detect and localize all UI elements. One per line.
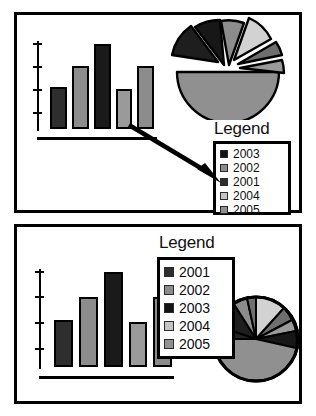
legend-row: 2004 — [220, 189, 283, 203]
bar-3 — [104, 272, 123, 367]
legend-label: 2003 — [179, 302, 210, 314]
legend-label: 2003 — [233, 148, 260, 160]
legend-swatch-2001 — [164, 267, 174, 277]
legend-label: 2005 — [179, 338, 210, 350]
annotation-arrow — [125, 119, 235, 189]
y-axis-tick — [33, 89, 42, 91]
y-axis-line — [37, 41, 39, 131]
legend-row: 2005 — [164, 335, 227, 353]
legend-row: 2004 — [164, 317, 227, 335]
legend-swatch-2005 — [164, 339, 174, 349]
top-exploded-pie — [165, 16, 291, 120]
legend-label: 2004 — [179, 320, 210, 332]
legend-row: 2003 — [164, 299, 227, 317]
legend-label: 2002 — [233, 162, 260, 174]
legend-swatch-2005 — [220, 206, 228, 214]
legend-row: 2001 — [164, 263, 227, 281]
y-axis-line — [39, 269, 41, 369]
y-axis-tick — [35, 271, 44, 273]
legend-label: 2004 — [233, 190, 260, 202]
legend-label: 2001 — [233, 176, 260, 188]
legend-row: 2005 — [220, 203, 283, 217]
legend-box: 2001 2002 2003 2004 2005 — [157, 257, 235, 359]
legend-row: 2002 — [164, 281, 227, 299]
bar-group — [54, 269, 174, 367]
arrow-icon — [129, 125, 221, 183]
bar-2 — [79, 297, 98, 367]
pie-slice-1 — [177, 72, 279, 120]
legend-label: 2002 — [179, 284, 210, 296]
legend-label: 2001 — [179, 266, 210, 278]
y-axis-tick — [33, 43, 42, 45]
bar-1 — [54, 320, 73, 367]
y-axis-tick — [33, 66, 42, 68]
bar-4 — [129, 322, 147, 367]
bar-3 — [94, 44, 111, 129]
legend-swatch-2003 — [164, 303, 174, 313]
x-axis-line — [39, 376, 174, 379]
y-axis-tick — [35, 296, 44, 298]
bar-1 — [50, 87, 67, 129]
legend-swatch-2004 — [164, 321, 174, 331]
y-axis-tick — [35, 348, 44, 350]
legend-swatch-2004 — [220, 192, 228, 200]
y-axis-tick — [33, 112, 42, 114]
bar-2 — [72, 66, 89, 129]
legend-swatch-2002 — [164, 285, 174, 295]
bottom-panel: Legend 2001 2002 2003 2004 2005 — [14, 224, 302, 404]
legend-label: 2005 — [233, 204, 260, 216]
legend-title: Legend — [159, 233, 215, 253]
top-panel: Legend 2003 2002 2001 2004 2005 — [14, 12, 302, 213]
y-axis-tick — [35, 322, 44, 324]
bar-group — [50, 41, 155, 129]
